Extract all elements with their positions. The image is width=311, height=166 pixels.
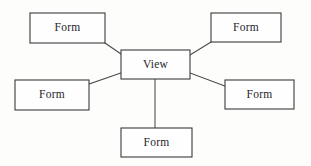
- edge-view-form-top-right: [190, 42, 211, 55]
- node-label-form-right: Form: [247, 88, 273, 100]
- node-label-form-top-left: Form: [55, 21, 81, 33]
- node-form-top-left[interactable]: Form: [30, 13, 105, 43]
- edge-view-form-top-left: [105, 43, 121, 54]
- node-label-form-top-right: Form: [233, 21, 259, 33]
- edge-view-form-left: [89, 73, 121, 84]
- node-form-right[interactable]: Form: [225, 80, 294, 109]
- node-form-top-right[interactable]: Form: [211, 13, 281, 42]
- node-label-form-bottom: Form: [144, 136, 170, 148]
- node-form-bottom[interactable]: Form: [121, 128, 192, 157]
- edge-view-form-right: [190, 73, 225, 86]
- node-form-left[interactable]: Form: [15, 80, 89, 110]
- node-view[interactable]: View: [121, 50, 190, 79]
- node-link-diagram: ViewFormFormFormFormForm: [0, 0, 311, 166]
- diagram-canvas-container: ViewFormFormFormFormForm: [0, 0, 311, 166]
- node-label-form-left: Form: [39, 88, 65, 100]
- node-label-view: View: [143, 58, 169, 70]
